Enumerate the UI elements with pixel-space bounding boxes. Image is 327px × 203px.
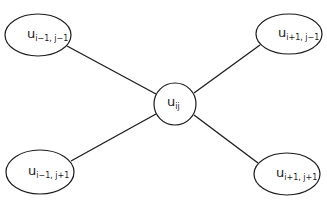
stencil-diagram: ui−1, j−1 ui+1, j−1 uij ui−1, j+1 ui+1, …: [0, 0, 327, 203]
node-bottom-right: ui+1, j+1: [254, 153, 320, 195]
edge-bottom-left: [71, 114, 156, 161]
node-top-left: ui−1, j−1: [5, 14, 71, 56]
node-bottom-left: ui−1, j+1: [6, 150, 74, 194]
node-top-right: ui+1, j−1: [256, 14, 322, 54]
edge-top-left: [67, 46, 156, 94]
edge-top-right: [194, 45, 260, 93]
edge-bottom-right: [194, 115, 258, 163]
node-center: uij: [154, 83, 196, 125]
